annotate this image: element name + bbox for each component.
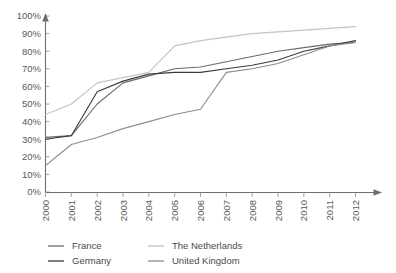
y-axis-tick-label: 80% <box>22 46 42 57</box>
y-axis-tick-label: 40% <box>22 116 42 127</box>
data-series-group <box>46 27 356 166</box>
x-axis-tick-label: 2007 <box>221 200 232 221</box>
chart-legend: FranceThe NetherlandsGermanyUnited Kingd… <box>48 240 242 266</box>
x-axis-tick-label: 2001 <box>66 200 77 221</box>
y-axis-tick-labels: 0%10%20%30%40%50%60%70%80%90%100% <box>17 10 42 197</box>
legend-label-france: France <box>72 240 102 251</box>
y-axis-tick-label: 60% <box>22 81 42 92</box>
x-axis-tick-label: 2002 <box>92 200 103 221</box>
x-axis-tick-label: 2005 <box>169 200 180 221</box>
y-axis-tick-label: 0% <box>27 186 41 197</box>
legend-label-germany: Germany <box>72 255 111 266</box>
x-axis-tick-label: 2012 <box>350 200 361 221</box>
y-axis-tick-label: 10% <box>22 169 42 180</box>
x-axis-tick-label: 2008 <box>247 200 258 221</box>
y-axis-tick-label: 50% <box>22 98 42 109</box>
x-axis-tick-label: 2004 <box>143 200 154 221</box>
x-axis-tick-label: 2010 <box>298 200 309 221</box>
y-axis-tick-label: 70% <box>22 63 42 74</box>
x-axis-tick-labels: 2000200120022003200420052006200720082009… <box>40 200 361 221</box>
x-axis-tick-marks <box>46 193 356 198</box>
series-line-france <box>46 42 356 137</box>
x-axis-tick-label: 2011 <box>324 200 335 220</box>
legend-label-the-netherlands: The Netherlands <box>172 240 242 251</box>
line-chart: 0%10%20%30%40%50%60%70%80%90%100% 200020… <box>0 0 396 273</box>
y-axis-tick-label: 20% <box>22 151 42 162</box>
series-line-germany <box>46 41 356 140</box>
x-axis-tick-label: 2000 <box>40 200 51 221</box>
x-axis-line <box>46 189 383 196</box>
x-axis-tick-label: 2003 <box>118 200 129 221</box>
series-line-united-kingdom <box>46 42 356 165</box>
x-axis-tick-label: 2006 <box>195 200 206 221</box>
x-axis-tick-label: 2009 <box>273 200 284 221</box>
y-axis-tick-label: 90% <box>22 28 42 39</box>
y-axis-tick-label: 30% <box>22 134 42 145</box>
legend-label-united-kingdom: United Kingdom <box>172 255 240 266</box>
chart-canvas: 0%10%20%30%40%50%60%70%80%90%100% 200020… <box>0 0 396 273</box>
y-axis-tick-label: 100% <box>17 10 42 21</box>
